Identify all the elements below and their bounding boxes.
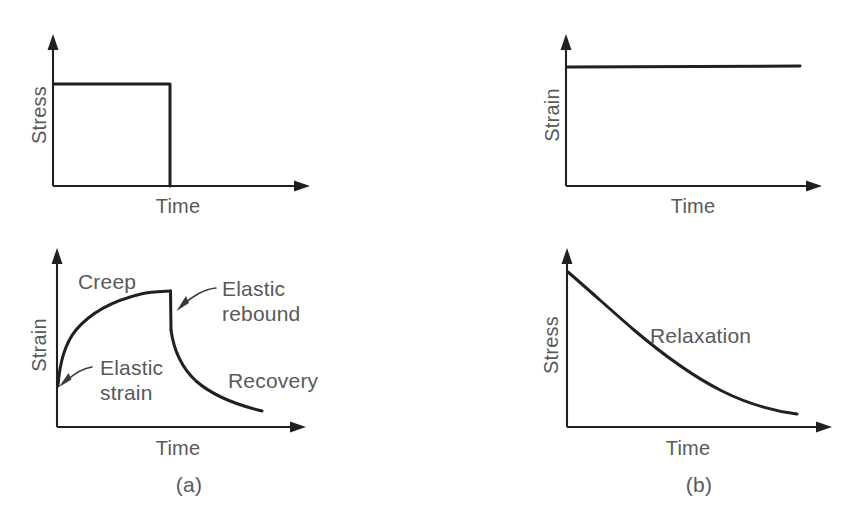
creep-relaxation-figure: Stress Time Creep Elastic rebound xyxy=(0,0,855,517)
figure-root: Stress Time Creep Elastic rebound xyxy=(0,0,855,517)
y-axis-arrow-icon xyxy=(48,34,59,50)
plot-bottom-right-stress-relaxation: Relaxation Stress Time xyxy=(540,248,832,459)
panel-caption-b: (b) xyxy=(686,473,712,496)
y-axis-arrow-icon xyxy=(52,248,63,264)
panel-caption-a: (a) xyxy=(176,473,202,496)
y-axis-arrow-icon xyxy=(561,34,572,50)
annotation-elastic-rebound-line2: rebound xyxy=(222,302,300,325)
x-axis-label-time: Time xyxy=(156,195,201,217)
y-axis-arrow-icon xyxy=(562,248,573,264)
annotation-elastic-strain-line1: Elastic xyxy=(100,356,163,379)
annotation-elastic-strain-line2: strain xyxy=(100,381,153,404)
applied-strain-constant-curve xyxy=(567,66,800,67)
annotation-relaxation: Relaxation xyxy=(650,324,751,347)
x-axis-arrow-icon xyxy=(816,422,832,433)
x-axis-label-time: Time xyxy=(671,195,716,217)
x-axis-arrow-icon xyxy=(806,181,822,192)
x-axis-arrow-icon xyxy=(290,422,306,433)
elastic-rebound-arrow-icon xyxy=(177,296,190,311)
y-axis-label-stress: Stress xyxy=(28,86,50,144)
y-axis-label-strain: Strain xyxy=(28,318,50,371)
annotation-recovery: Recovery xyxy=(228,369,319,392)
x-axis-arrow-icon xyxy=(294,181,310,192)
x-axis-label-time: Time xyxy=(156,437,201,459)
elastic-rebound-drop xyxy=(171,291,172,330)
plot-bottom-left-strain-creep: Creep Elastic rebound Elastic strain Rec… xyxy=(28,248,318,459)
annotation-creep: Creep xyxy=(78,270,136,293)
elastic-strain-arrow-icon xyxy=(59,373,72,387)
annotation-elastic-rebound-line1: Elastic xyxy=(222,277,285,300)
y-axis-label-strain: Strain xyxy=(541,88,563,141)
y-axis-label-stress: Stress xyxy=(540,316,562,374)
x-axis-label-time: Time xyxy=(666,437,711,459)
plot-top-right-applied-strain: Strain Time xyxy=(541,34,822,217)
plot-top-left-applied-stress: Stress Time xyxy=(28,34,310,217)
applied-stress-step-curve xyxy=(54,84,170,186)
